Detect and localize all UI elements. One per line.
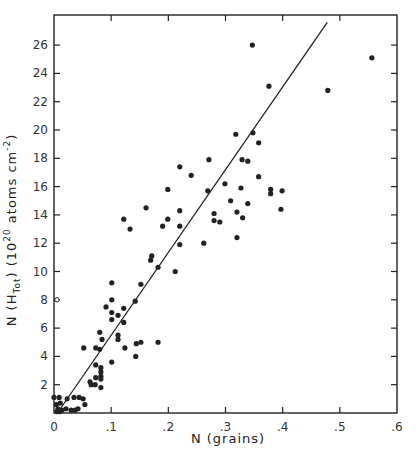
x-tick-label: .6 — [391, 420, 402, 434]
data-point — [148, 258, 153, 263]
data-point — [228, 198, 233, 203]
data-point — [122, 345, 127, 350]
data-point — [206, 157, 211, 162]
y-tick-label: 8 — [40, 293, 48, 307]
data-point — [256, 174, 261, 179]
data-point — [234, 235, 239, 240]
data-point — [57, 395, 62, 400]
data-point — [240, 215, 245, 220]
x-tick-label: .5 — [334, 420, 345, 434]
data-point — [325, 88, 330, 93]
data-point — [143, 205, 148, 210]
data-point — [82, 402, 87, 407]
data-point — [75, 406, 80, 411]
data-point — [98, 376, 103, 381]
data-point — [81, 345, 86, 350]
y-tick-label: 20 — [33, 123, 48, 137]
data-point — [93, 375, 98, 380]
data-point — [165, 217, 170, 222]
data-point — [278, 207, 283, 212]
data-point — [245, 201, 250, 206]
data-point — [155, 265, 160, 270]
data-point — [138, 282, 143, 287]
scatter-chart: 0.1.2.3.4.5.6 2468101214161820222426 N (… — [0, 0, 416, 461]
data-points — [51, 43, 374, 415]
data-point — [201, 241, 206, 246]
data-point — [63, 406, 68, 411]
data-point — [71, 395, 76, 400]
data-point — [89, 382, 94, 387]
data-point — [234, 209, 239, 214]
data-point — [279, 188, 284, 193]
data-point — [121, 217, 126, 222]
data-point — [81, 396, 86, 401]
data-point — [217, 219, 222, 224]
data-point — [109, 317, 114, 322]
data-point — [109, 280, 114, 285]
y-tick-label: 4 — [40, 349, 48, 363]
open-marker — [55, 298, 59, 302]
data-point — [51, 395, 56, 400]
data-point — [245, 159, 250, 164]
data-point — [115, 313, 120, 318]
data-point — [238, 185, 243, 190]
x-tick-label: .1 — [105, 420, 116, 434]
data-point — [93, 362, 98, 367]
data-point — [211, 218, 216, 223]
data-point — [115, 337, 120, 342]
data-point — [127, 226, 132, 231]
data-point — [239, 157, 244, 162]
data-point — [369, 55, 374, 60]
data-point — [177, 164, 182, 169]
data-point — [177, 208, 182, 213]
data-point — [173, 269, 178, 274]
y-tick-label: 22 — [33, 95, 48, 109]
data-point — [133, 299, 138, 304]
x-tick-label: .4 — [277, 420, 288, 434]
data-point — [222, 181, 227, 186]
plot-frame — [54, 15, 397, 413]
data-point — [256, 140, 261, 145]
data-point — [268, 191, 273, 196]
data-point — [121, 306, 126, 311]
data-point — [65, 396, 70, 401]
data-point — [109, 310, 114, 315]
data-point — [121, 320, 126, 325]
y-tick-label: 10 — [33, 265, 48, 279]
y-tick-label: 16 — [33, 180, 48, 194]
plot-border — [54, 15, 397, 413]
regression-line — [57, 22, 327, 413]
y-tick-label: 26 — [33, 38, 48, 52]
x-tick-label: .2 — [163, 420, 174, 434]
data-point — [57, 409, 62, 414]
data-point — [97, 330, 102, 335]
data-point — [266, 84, 271, 89]
y-tick-label: 2 — [40, 378, 48, 392]
data-point — [133, 354, 138, 359]
y-tick-label: 12 — [33, 236, 48, 250]
data-point — [189, 173, 194, 178]
fit-line — [57, 22, 327, 413]
data-point — [109, 359, 114, 364]
y-axis-label: N (HTot) (1020 atoms cm-2) — [2, 134, 22, 327]
data-point — [233, 132, 238, 137]
y-tick-label: 24 — [33, 66, 48, 80]
data-point — [250, 43, 255, 48]
data-point — [160, 224, 165, 229]
data-point — [134, 341, 139, 346]
data-point — [177, 242, 182, 247]
x-axis-label: N (grains) — [191, 431, 265, 446]
data-point — [98, 385, 103, 390]
data-point — [205, 188, 210, 193]
data-point — [99, 337, 104, 342]
data-point — [138, 340, 143, 345]
y-tick-label: 18 — [33, 151, 48, 165]
data-point — [211, 211, 216, 216]
x-tick-label: 0 — [50, 420, 58, 434]
data-point — [155, 340, 160, 345]
y-tick-label: 6 — [40, 321, 48, 335]
data-point — [103, 304, 108, 309]
data-point — [109, 297, 114, 302]
data-point — [97, 347, 102, 352]
y-tick-label: 14 — [33, 208, 48, 222]
